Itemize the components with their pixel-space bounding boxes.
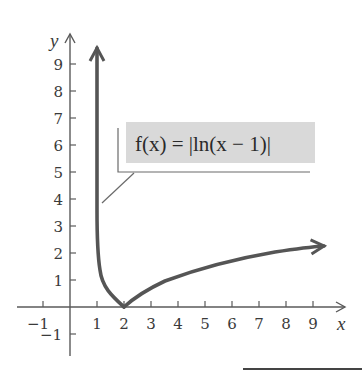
y-tick-label: 4 [53, 191, 63, 209]
x-axis-label: x [336, 313, 346, 334]
curve-right-branch [124, 246, 324, 307]
y-tick-label: 1 [53, 272, 63, 290]
y-tick-label: 7 [53, 110, 63, 128]
x-tick-label: 1 [92, 315, 102, 333]
function-graph: −1 1 2 3 4 5 6 7 8 9 x −1 1 2 3 4 5 6 7 … [0, 0, 362, 371]
y-tick-label: 8 [53, 83, 63, 101]
y-ticks [70, 64, 76, 334]
x-tick-label: 7 [254, 315, 264, 333]
x-ticks [43, 301, 313, 307]
y-tick-label: 9 [53, 56, 63, 74]
x-tick-label: 6 [227, 315, 237, 333]
x-tick-label: 4 [173, 315, 183, 333]
y-tick-label: 3 [53, 218, 63, 236]
x-tick-label: 9 [308, 315, 318, 333]
y-tick-labels: −1 1 2 3 4 5 6 7 8 9 [40, 56, 63, 344]
function-label-callout: f(x) = |ln(x − 1)| [102, 122, 315, 203]
y-tick-label: 2 [53, 245, 63, 263]
x-tick-label: 2 [119, 315, 129, 333]
x-tick-label: 8 [281, 315, 291, 333]
y-axis-label: y [48, 30, 59, 51]
y-tick-label: 6 [53, 137, 63, 155]
function-label: f(x) = |ln(x − 1)| [135, 132, 271, 156]
y-tick-label: 5 [53, 164, 63, 182]
y-tick-label: −1 [40, 326, 62, 344]
curve-left-branch [97, 48, 124, 307]
leader-line [102, 173, 134, 203]
x-tick-label: 5 [200, 315, 210, 333]
x-tick-label: 3 [146, 315, 156, 333]
